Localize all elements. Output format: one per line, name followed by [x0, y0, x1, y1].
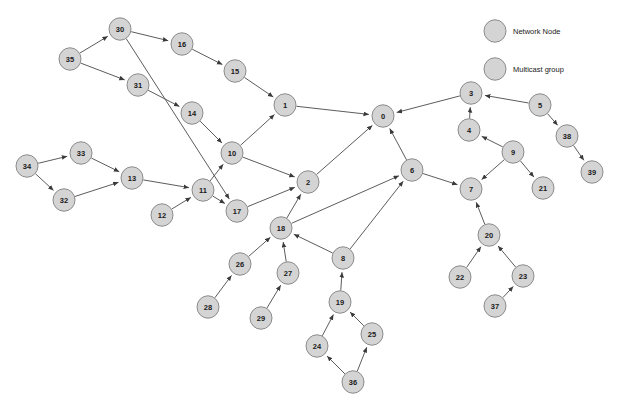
- graph-node-3[interactable]: 3: [460, 82, 482, 104]
- node-circle-1[interactable]: [274, 94, 296, 116]
- edge-16-to-15: [192, 49, 222, 64]
- node-circle-32[interactable]: [53, 189, 75, 211]
- graph-node-34[interactable]: 34: [16, 155, 38, 177]
- edge-2-to-0: [317, 125, 373, 174]
- node-circle-30[interactable]: [109, 18, 131, 40]
- graph-node-11[interactable]: 11: [192, 179, 214, 201]
- node-circle-2[interactable]: [297, 171, 319, 193]
- node-circle-20[interactable]: [478, 224, 500, 246]
- edges-layer: [35, 32, 583, 374]
- edge-18-to-2: [287, 194, 301, 218]
- legend-item-1: Multicast group: [484, 58, 564, 80]
- edge-37-to-23: [503, 286, 513, 297]
- graph-node-12[interactable]: 12: [151, 204, 173, 226]
- edge-9-to-4: [482, 136, 503, 147]
- node-circle-25[interactable]: [361, 323, 383, 345]
- node-circle-8[interactable]: [332, 247, 354, 269]
- node-circle-4[interactable]: [458, 119, 480, 141]
- node-circle-7[interactable]: [460, 178, 482, 200]
- graph-node-9[interactable]: 9: [502, 141, 524, 163]
- graph-node-18[interactable]: 18: [270, 217, 292, 239]
- graph-node-17[interactable]: 17: [226, 200, 248, 222]
- graph-node-4[interactable]: 4: [458, 119, 480, 141]
- nodes-layer: 0123456789101112131415161718192021222324…: [16, 18, 603, 393]
- graph-node-27[interactable]: 27: [277, 262, 299, 284]
- graph-node-36[interactable]: 36: [342, 371, 364, 393]
- graph-node-20[interactable]: 20: [478, 224, 500, 246]
- node-circle-35[interactable]: [59, 48, 81, 70]
- graph-node-10[interactable]: 10: [221, 142, 243, 164]
- graph-node-0[interactable]: 0: [372, 105, 394, 127]
- graph-node-35[interactable]: 35: [59, 48, 81, 70]
- graph-node-16[interactable]: 16: [171, 33, 193, 55]
- node-circle-15[interactable]: [224, 60, 246, 82]
- graph-node-24[interactable]: 24: [306, 335, 328, 357]
- edge-30-to-16: [131, 32, 168, 41]
- legend: Network NodeMulticast group: [484, 20, 564, 80]
- node-circle-3[interactable]: [460, 82, 482, 104]
- node-circle-22[interactable]: [449, 266, 471, 288]
- node-circle-5[interactable]: [529, 94, 551, 116]
- node-circle-27[interactable]: [277, 262, 299, 284]
- network-graph: 0123456789101112131415161718192021222324…: [0, 0, 618, 408]
- graph-node-28[interactable]: 28: [197, 296, 219, 318]
- node-circle-37[interactable]: [484, 295, 506, 317]
- graph-node-6[interactable]: 6: [401, 159, 423, 181]
- graph-node-22[interactable]: 22: [449, 266, 471, 288]
- edge-13-to-11: [143, 180, 189, 188]
- graph-node-8[interactable]: 8: [332, 247, 354, 269]
- graph-node-33[interactable]: 33: [70, 142, 92, 164]
- node-circle-18[interactable]: [270, 217, 292, 239]
- node-circle-19[interactable]: [329, 291, 351, 313]
- node-circle-11[interactable]: [192, 179, 214, 201]
- node-circle-33[interactable]: [70, 142, 92, 164]
- edge-36-to-25: [357, 347, 367, 371]
- node-circle-10[interactable]: [221, 142, 243, 164]
- graph-node-25[interactable]: 25: [361, 323, 383, 345]
- graph-node-29[interactable]: 29: [250, 307, 272, 329]
- node-circle-26[interactable]: [229, 253, 251, 275]
- graph-node-32[interactable]: 32: [53, 189, 75, 211]
- graph-node-5[interactable]: 5: [529, 94, 551, 116]
- graph-node-14[interactable]: 14: [181, 102, 203, 124]
- graph-node-13[interactable]: 13: [121, 167, 143, 189]
- graph-node-1[interactable]: 1: [274, 94, 296, 116]
- edge-24-to-19: [322, 315, 333, 336]
- graph-node-37[interactable]: 37: [484, 295, 506, 317]
- edge-17-to-2: [248, 187, 295, 206]
- node-circle-0[interactable]: [372, 105, 394, 127]
- node-circle-6[interactable]: [401, 159, 423, 181]
- node-circle-28[interactable]: [197, 296, 219, 318]
- edge-8-to-6: [350, 181, 403, 249]
- node-circle-31[interactable]: [127, 74, 149, 96]
- node-circle-16[interactable]: [171, 33, 193, 55]
- graph-node-23[interactable]: 23: [512, 265, 534, 287]
- graph-node-19[interactable]: 19: [329, 291, 351, 313]
- node-circle-21[interactable]: [532, 177, 554, 199]
- node-circle-23[interactable]: [512, 265, 534, 287]
- node-circle-13[interactable]: [121, 167, 143, 189]
- graph-node-39[interactable]: 39: [581, 161, 603, 183]
- node-circle-39[interactable]: [581, 161, 603, 183]
- graph-node-26[interactable]: 26: [229, 253, 251, 275]
- node-circle-38[interactable]: [556, 125, 578, 147]
- node-circle-14[interactable]: [181, 102, 203, 124]
- graph-node-30[interactable]: 30: [109, 18, 131, 40]
- graph-node-15[interactable]: 15: [224, 60, 246, 82]
- node-circle-29[interactable]: [250, 307, 272, 329]
- graph-node-21[interactable]: 21: [532, 177, 554, 199]
- edge-31-to-14: [148, 90, 179, 106]
- node-circle-34[interactable]: [16, 155, 38, 177]
- node-circle-36[interactable]: [342, 371, 364, 393]
- node-circle-9[interactable]: [502, 141, 524, 163]
- edge-11-to-17: [213, 196, 225, 204]
- node-circle-24[interactable]: [306, 335, 328, 357]
- node-circle-17[interactable]: [226, 200, 248, 222]
- graph-node-31[interactable]: 31: [127, 74, 149, 96]
- graph-node-38[interactable]: 38: [556, 125, 578, 147]
- graph-node-7[interactable]: 7: [460, 178, 482, 200]
- edge-27-to-18: [283, 242, 286, 262]
- node-circle-12[interactable]: [151, 204, 173, 226]
- graph-node-2[interactable]: 2: [297, 171, 319, 193]
- edge-15-to-1: [245, 77, 274, 97]
